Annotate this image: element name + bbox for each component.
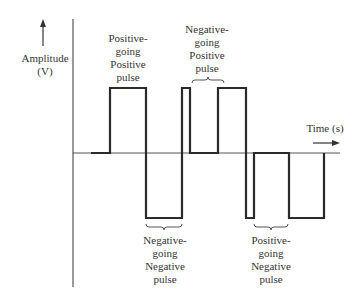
annotation-line: going: [240, 247, 302, 260]
y-axis-label: Amplitude (V): [14, 52, 76, 78]
annotation-line: pulse: [134, 273, 196, 286]
annotation-line: pulse: [176, 62, 238, 75]
annotation-line: Negative-: [176, 23, 238, 36]
annotation-line: Positive-: [240, 234, 302, 247]
annotation-line: going: [134, 247, 196, 260]
amplitude-arrow-icon: [40, 19, 46, 46]
annotation-pos-going-pos: Positive- going Positive pulse: [98, 32, 158, 84]
annotation-line: Negative: [134, 260, 196, 273]
annotation-line: Positive-: [98, 32, 158, 45]
annotation-line: Negative-: [134, 234, 196, 247]
annotation-line: pulse: [98, 71, 158, 84]
brace-pos-going-neg: [254, 224, 288, 230]
time-arrow-icon: [313, 140, 340, 146]
annotation-line: going: [176, 36, 238, 49]
y-axis-label-text: Amplitude: [14, 52, 76, 65]
x-axis-label: Time (s): [300, 122, 350, 135]
annotation-line: Negative: [240, 260, 302, 273]
annotation-line: Positive: [98, 58, 158, 71]
x-axis-label-text: Time (s): [300, 122, 350, 135]
annotation-line: pulse: [240, 273, 302, 286]
annotation-pos-going-neg: Positive- going Negative pulse: [240, 234, 302, 286]
annotation-line: going: [98, 45, 158, 58]
y-axis-unit-text: (V): [14, 65, 76, 78]
annotation-neg-going-neg: Negative- going Negative pulse: [134, 234, 196, 286]
annotation-line: Positive: [176, 49, 238, 62]
brace-neg-going-neg: [146, 224, 182, 230]
annotation-neg-going-pos: Negative- going Positive pulse: [176, 23, 238, 75]
brace-neg-going-pos: [192, 77, 224, 83]
